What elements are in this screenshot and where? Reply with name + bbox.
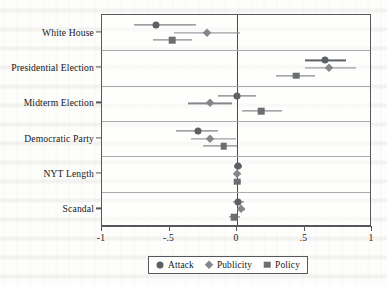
y-axis-tick-label: NYT Length xyxy=(43,168,94,179)
legend-item-policy: Policy xyxy=(263,260,300,270)
row-gridline xyxy=(102,192,370,193)
row-gridline xyxy=(102,156,370,157)
y-axis-tick xyxy=(96,31,101,32)
row-gridline xyxy=(102,121,370,122)
data-point-marker xyxy=(231,214,238,221)
y-axis-tick-label: Midterm Election xyxy=(24,97,94,108)
legend-item-publicity: Publicity xyxy=(205,260,252,270)
legend-item-label: Policy xyxy=(275,260,300,270)
x-axis-tick-label: .5 xyxy=(300,232,308,243)
data-point-marker xyxy=(194,128,201,135)
legend-item-attack: Attack xyxy=(156,260,194,270)
x-axis-tick-label: 1 xyxy=(369,232,374,243)
legend-item-label: Publicity xyxy=(217,260,252,270)
x-axis-tick-label: -.5 xyxy=(163,232,174,243)
data-point-marker xyxy=(232,169,241,178)
data-point-marker xyxy=(153,22,160,29)
x-axis-tick xyxy=(101,226,102,231)
row-gridline xyxy=(102,50,370,51)
chart-page: White HousePresidential ElectionMidterm … xyxy=(0,0,387,286)
y-axis-tick xyxy=(96,208,101,209)
x-axis-tick xyxy=(236,226,237,231)
y-axis-tick xyxy=(96,172,101,173)
y-axis-tick xyxy=(96,102,101,103)
data-point-marker xyxy=(293,72,300,79)
y-axis-tick-label: Democratic Party xyxy=(24,132,94,143)
chart-legend: AttackPublicityPolicy xyxy=(148,256,308,274)
row-gridline xyxy=(102,86,370,87)
data-point-marker xyxy=(234,178,241,185)
y-axis-tick-label: White House xyxy=(42,26,94,37)
data-point-marker xyxy=(203,28,212,37)
x-axis-tick-label: 0 xyxy=(234,232,239,243)
data-point-marker xyxy=(169,37,176,44)
confidence-interval-bar xyxy=(134,24,196,25)
x-axis-tick-label: -1 xyxy=(97,232,105,243)
data-point-marker xyxy=(234,92,241,99)
data-point-marker xyxy=(324,63,333,72)
circle-marker-icon xyxy=(156,261,164,269)
data-point-marker xyxy=(205,99,214,108)
data-point-marker xyxy=(220,143,227,150)
data-point-marker xyxy=(205,134,214,143)
data-point-marker xyxy=(321,57,328,64)
zero-reference-line xyxy=(237,15,238,225)
y-axis-tick-label: Presidential Election xyxy=(11,62,94,73)
x-axis-tick xyxy=(371,226,372,231)
x-axis-tick xyxy=(304,226,305,231)
y-axis-tick-label: Scandal xyxy=(63,203,94,214)
x-axis-tick xyxy=(169,226,170,231)
diamond-marker-icon xyxy=(205,261,213,269)
legend-item-label: Attack xyxy=(168,260,194,270)
y-axis-tick xyxy=(96,137,101,138)
data-point-marker xyxy=(258,108,265,115)
y-axis-tick xyxy=(96,66,101,67)
plot-area xyxy=(101,14,371,226)
square-marker-icon xyxy=(263,261,271,269)
